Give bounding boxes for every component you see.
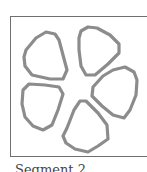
segmentation-figure: Segment 2 — [0, 0, 147, 172]
lower-left-petal — [22, 84, 63, 130]
right-petal — [92, 67, 137, 118]
petal-outlines — [0, 0, 147, 172]
figure-caption: Segment 2 — [15, 163, 86, 172]
bottom-petal — [63, 101, 108, 152]
upper-right-petal — [79, 27, 119, 75]
upper-left-petal — [24, 32, 67, 79]
